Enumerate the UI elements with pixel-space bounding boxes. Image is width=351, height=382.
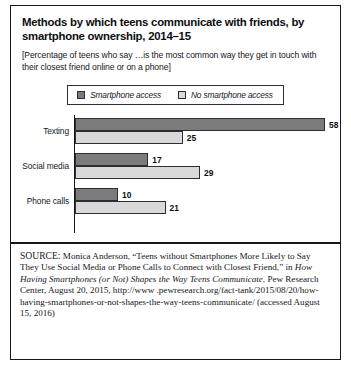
bar-group: Social media1729 [11,153,340,179]
bar-row: 25 [75,131,340,144]
legend-swatch-icon-no-smartphone-access [178,91,186,99]
title-block: Methods by which teens communicate with … [11,6,340,73]
legend-label-smartphone-access: Smartphone access [90,90,161,100]
bar-row: 21 [75,201,340,214]
bar-smartphone-access [75,118,325,131]
bar-value-label: 25 [187,133,196,143]
chart-subtitle: [Percentage of teens who say …is the mos… [22,50,329,73]
bar-row: 58 [75,118,340,131]
bar-pair: 1729 [75,153,340,179]
bar-pair: 5825 [75,118,340,144]
bar-no-smartphone-access [75,201,166,214]
bar-no-smartphone-access [75,131,183,144]
legend-label-no-smartphone-access: No smartphone access [191,90,273,100]
bar-value-label: 10 [122,190,131,200]
source-note: SOURCE: Monica Anderson, “Teens without … [11,244,340,321]
bar-group: Texting5825 [11,118,340,144]
legend-entry-smartphone-access: Smartphone access [77,90,161,100]
bar-value-label: 29 [204,168,213,178]
bar-row: 17 [75,153,340,166]
bar-no-smartphone-access [75,166,200,179]
legend-swatch-icon-smartphone-access [77,91,85,99]
bar-row: 29 [75,166,340,179]
legend-entry-no-smartphone-access: No smartphone access [178,90,273,100]
bar-value-label: 17 [152,155,161,165]
bar-groups: Texting5825Social media1729Phone calls10… [11,118,340,214]
figure-frame: Methods by which teens communicate with … [10,5,341,360]
legend: Smartphone access No smartphone access [11,85,340,105]
source-text-part-1: Monica Anderson, “Teens without Smartpho… [20,251,310,273]
category-label: Texting [11,126,69,136]
bar-group: Phone calls1021 [11,188,340,214]
legend-box: Smartphone access No smartphone access [67,85,284,105]
bar-smartphone-access [75,153,148,166]
bar-value-label: 58 [329,120,338,130]
plot-area: Texting5825Social media1729Phone calls10… [11,115,340,233]
category-label: Social media [11,161,69,171]
bar-row: 10 [75,188,340,201]
chart-title: Methods by which teens communicate with … [22,15,329,43]
bar-smartphone-access [75,188,118,201]
bar-value-label: 21 [170,203,179,213]
source-prefix: SOURCE: [20,250,61,261]
category-label: Phone calls [11,196,69,206]
bar-pair: 1021 [75,188,340,214]
